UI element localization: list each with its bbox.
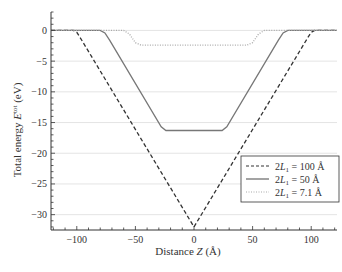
x-tick-label: −50: [128, 234, 144, 245]
energy-chart: −100−500501000−5−10−15−20−25−30 Distance…: [0, 0, 342, 272]
x-axis-label: Distance Z (Å): [155, 245, 221, 258]
y-tick-label: −10: [31, 86, 47, 97]
y-axis-label: Total energy Etot (eV): [11, 82, 24, 177]
series-line: [51, 30, 337, 130]
y-tick-label: 0: [42, 25, 47, 36]
x-tick-label: 0: [192, 234, 197, 245]
x-tick-label: 100: [304, 234, 319, 245]
y-tick-label: −5: [36, 56, 47, 67]
y-tick-label: −15: [31, 117, 47, 128]
tick-labels: −100−500501000−5−10−15−20−25−30: [31, 25, 318, 245]
y-tick-label: −30: [31, 209, 47, 220]
y-tick-label: −25: [31, 178, 47, 189]
x-tick-label: −100: [66, 234, 87, 245]
y-tick-label: −20: [31, 148, 47, 159]
x-tick-label: 50: [248, 234, 258, 245]
legend: 2L1 = 100 Å 2L1 = 50 Å 2L1 = 7.1 Å: [241, 156, 339, 202]
series-line: [51, 30, 337, 45]
